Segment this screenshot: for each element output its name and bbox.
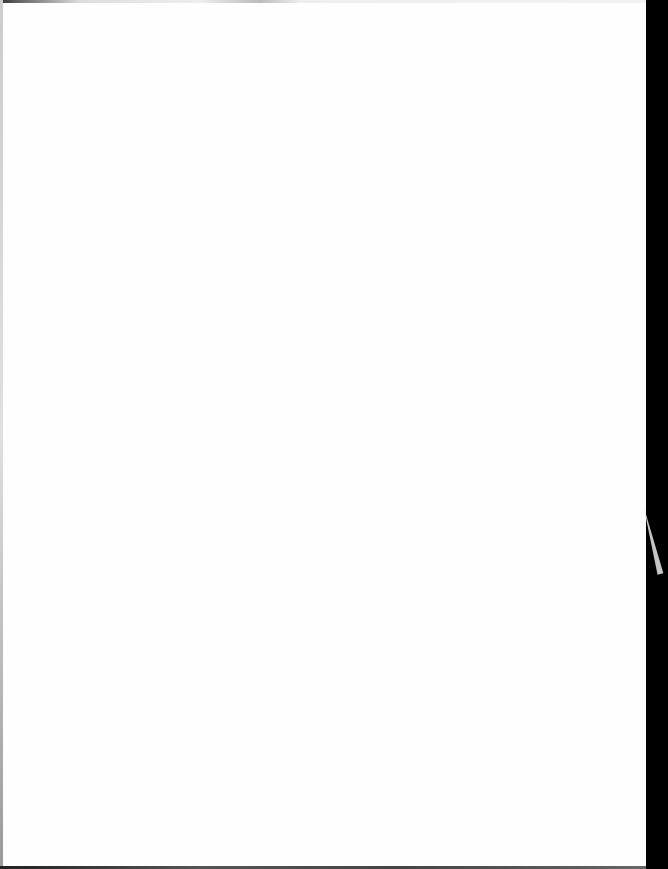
paper-top-edge — [0, 0, 646, 3]
paper-left-edge — [0, 0, 3, 869]
scanner-background-strip — [646, 0, 668, 869]
scanned-page — [0, 0, 668, 869]
blank-paper-sheet — [0, 0, 646, 869]
